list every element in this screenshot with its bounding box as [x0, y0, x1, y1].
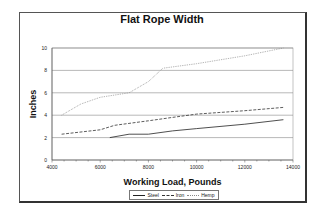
legend-item-hemp: Hemp	[187, 192, 214, 198]
x-tick-label: 8000	[143, 164, 154, 170]
y-tick-label: 8	[44, 67, 47, 73]
y-tick-label: 0	[44, 157, 47, 163]
x-axis-label: Working Load, Pounds	[124, 177, 222, 187]
y-tick-label: 6	[44, 90, 47, 96]
x-tick-label: 6000	[95, 164, 106, 170]
plot-box	[52, 48, 293, 160]
dotted-line-icon	[187, 195, 199, 196]
y-tick-label: 2	[44, 135, 47, 141]
x-tick-label: 10000	[190, 164, 204, 170]
y-tick-label: 4	[44, 112, 47, 118]
dashed-line-icon	[162, 195, 174, 196]
y-axis-label: Inches	[28, 90, 38, 119]
solid-line-icon	[133, 195, 145, 196]
x-tick-label: 12000	[238, 164, 252, 170]
legend: Steel Iron Hemp	[129, 190, 219, 200]
y-tick-label: 10	[41, 45, 47, 51]
x-tick-label: 4000	[46, 164, 57, 170]
x-tick-label: 14000	[286, 164, 300, 170]
legend-item-iron: Iron	[162, 192, 185, 198]
plot-area: 0246810400060008000100001200014000Workin…	[0, 0, 324, 217]
legend-item-steel: Steel	[133, 192, 158, 198]
